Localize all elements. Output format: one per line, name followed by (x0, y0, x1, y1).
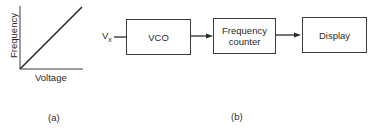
arrowhead-icon (206, 34, 213, 39)
input-voltage-label: Vx (102, 30, 112, 43)
input-voltage-subscript: x (108, 36, 112, 43)
vco-block: VCO (126, 19, 191, 55)
frequency-counter-block: Frequency counter (213, 18, 276, 54)
display-block: Display (302, 17, 367, 53)
display-label: Display (319, 30, 350, 41)
x-axis-label: Voltage (35, 72, 67, 83)
y-axis-label: Frequency (8, 11, 19, 61)
caption-a: (a) (48, 112, 60, 123)
arrowhead-icon (294, 33, 301, 38)
frequency-counter-label-line1: Frequency (222, 25, 267, 36)
vco-label: VCO (148, 32, 169, 43)
frequency-counter-label-line2: counter (229, 36, 261, 47)
caption-b: (b) (231, 111, 243, 122)
frequency-voltage-line (20, 7, 82, 69)
